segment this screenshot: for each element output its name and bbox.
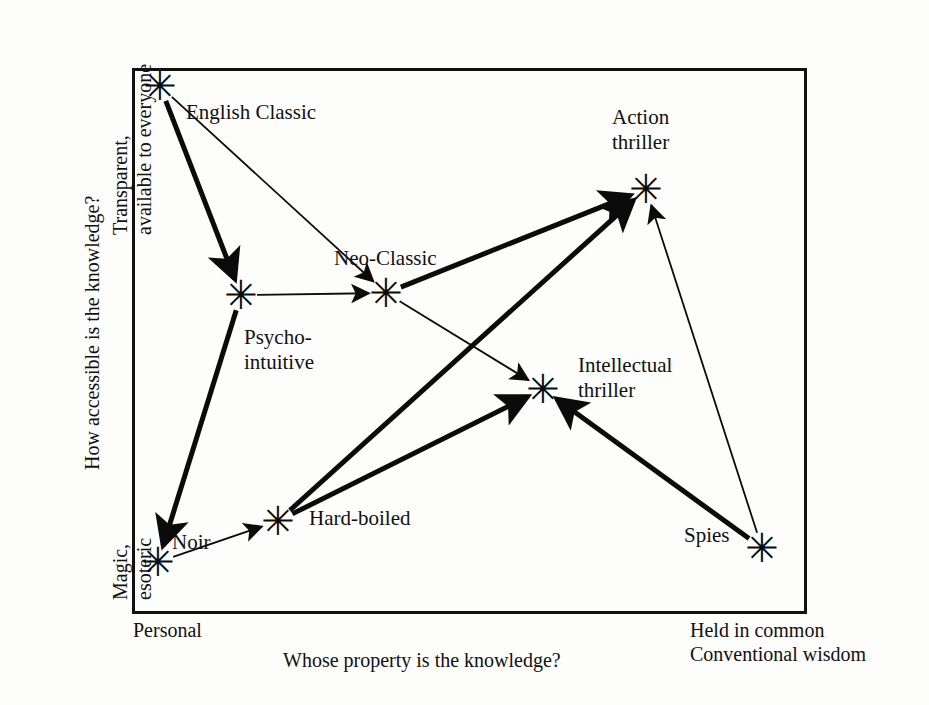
- node-marker-spies[interactable]: ✳: [745, 528, 779, 568]
- x-axis-title: Whose property is the knowledge?: [283, 648, 561, 672]
- node-label-psycho-intuitive: Psycho- intuitive: [244, 325, 314, 375]
- node-marker-neo-classic[interactable]: ✳: [369, 273, 403, 313]
- node-marker-action-thriller[interactable]: ✳: [629, 169, 663, 209]
- node-marker-hard-boiled[interactable]: ✳: [261, 501, 295, 541]
- x-axis-high-label: Held in common Conventional wisdom: [690, 618, 866, 666]
- node-label-hard-boiled: Hard-boiled: [309, 506, 410, 531]
- node-label-action-thriller: Action thriller: [612, 105, 669, 155]
- y-axis-title: How accessible is the knowledge?: [80, 196, 104, 470]
- node-label-spies: Spies: [684, 523, 730, 548]
- x-axis-low-label: Personal: [133, 618, 202, 642]
- node-label-intellectual-thriller: Intellectual thriller: [578, 353, 672, 403]
- diagram-canvas: How accessible is the knowledge? Transpa…: [0, 0, 929, 705]
- node-marker-intellectual-thriller[interactable]: ✳: [526, 369, 560, 409]
- node-marker-psycho-intuitive[interactable]: ✳: [224, 275, 258, 315]
- node-label-noir: Noir: [172, 530, 211, 555]
- node-label-english-classic: English Classic: [186, 100, 316, 125]
- node-label-neo-classic: Neo-Classic: [334, 246, 437, 271]
- node-marker-noir[interactable]: ✳: [141, 542, 175, 582]
- node-marker-english-classic[interactable]: ✳: [143, 66, 177, 106]
